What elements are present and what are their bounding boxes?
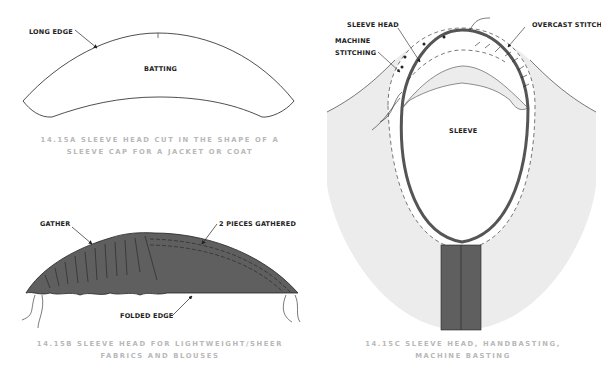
sleeve-head-diagram: LONG EDGE BATTING 14.15A SLEEVE HEAD CUT… <box>0 0 601 365</box>
caption-c-line1: 14.15C SLEEVE HEAD, HANDBASTING, <box>365 340 561 348</box>
two-pieces-gathered-label: 2 PIECES GATHERED <box>219 220 296 228</box>
folded-edge-label: FOLDED EDGE <box>120 312 173 320</box>
figure-c-sleeve-head-basting <box>327 18 596 330</box>
sleeve-head-label: SLEEVE HEAD <box>347 21 399 29</box>
machine-label: MACHINE <box>335 37 370 45</box>
sleeve-label: SLEEVE <box>449 127 477 135</box>
caption-a-line1: 14.15A SLEEVE HEAD CUT IN THE SHAPE OF A <box>41 136 280 144</box>
caption-b-line1: 14.15B SLEEVE HEAD FOR LIGHTWEIGHT/SHEER <box>37 340 283 348</box>
gather-label: GATHER <box>40 220 70 228</box>
figure-a-batting <box>23 30 294 117</box>
batting-label: BATTING <box>144 65 177 73</box>
long-edge-label: LONG EDGE <box>29 28 73 36</box>
stitching-label: STITCHING <box>335 49 376 57</box>
caption-b-line2: FABRICS AND BLOUSES <box>101 352 220 360</box>
overcast-stitch-label: OVERCAST STITCH <box>532 21 601 29</box>
caption-a-line2: SLEEVE CAP FOR A JACKET OR COAT <box>67 148 254 156</box>
caption-c-line2: MACHINE BASTING <box>415 352 511 360</box>
